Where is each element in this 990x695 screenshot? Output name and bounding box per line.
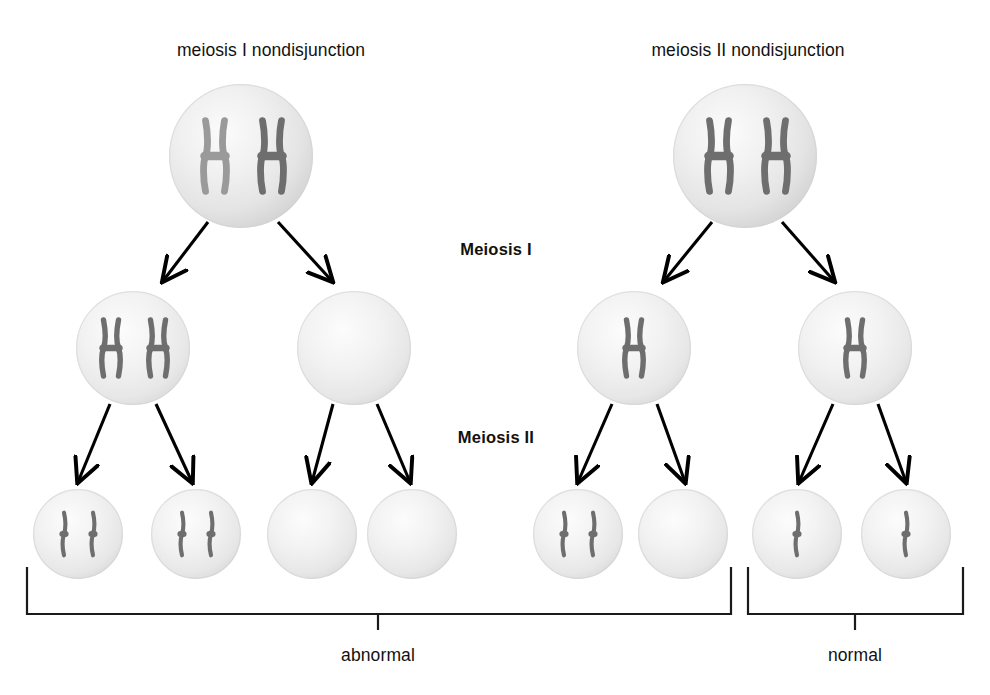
arrow-m1-rb-1 bbox=[799, 404, 833, 482]
arrow-m1-lb-2 bbox=[377, 404, 410, 482]
label-stage-two: Meiosis II bbox=[458, 428, 534, 447]
meiosis-nondisjunction-diagram: meiosis I nondisjunctionmeiosis II nondi… bbox=[0, 0, 990, 695]
cell-m1-left-a bbox=[76, 291, 190, 405]
bracket-normal bbox=[748, 567, 963, 630]
arrow-m1-ra-2 bbox=[657, 404, 685, 482]
cell-gamete-3 bbox=[267, 489, 357, 579]
diagram-canvas bbox=[0, 0, 990, 695]
cell-gamete-5 bbox=[533, 489, 623, 579]
arrow-m1-lb-1 bbox=[312, 404, 333, 482]
cell-m1-left-b bbox=[297, 291, 411, 405]
arrow-m1-la-2 bbox=[156, 404, 192, 482]
cell-gamete-6 bbox=[638, 489, 728, 579]
label-outcome-right: normal bbox=[828, 645, 882, 666]
cell-gamete-2 bbox=[151, 489, 241, 579]
arrow-m1-rb-2 bbox=[878, 404, 906, 482]
bracket-abnormal bbox=[27, 567, 731, 630]
arrow-p-left-1 bbox=[163, 222, 208, 281]
label-title-left: meiosis I nondisjunction bbox=[177, 40, 365, 61]
cell-gamete-4 bbox=[367, 489, 457, 579]
arrow-m1-ra-1 bbox=[578, 404, 612, 482]
label-outcome-left: abnormal bbox=[341, 645, 415, 666]
brackets-layer bbox=[27, 567, 963, 630]
cell-parent-left bbox=[169, 84, 313, 228]
label-title-right: meiosis II nondisjunction bbox=[651, 40, 844, 61]
cells-layer bbox=[33, 84, 951, 579]
arrow-p-right-2 bbox=[782, 222, 834, 281]
arrow-p-left-2 bbox=[278, 222, 332, 281]
arrow-m1-la-1 bbox=[78, 404, 110, 482]
cell-gamete-8 bbox=[861, 489, 951, 579]
cell-gamete-7 bbox=[752, 489, 842, 579]
label-stage-one: Meiosis I bbox=[460, 240, 532, 259]
cell-parent-right bbox=[673, 84, 817, 228]
arrow-p-right-1 bbox=[664, 222, 712, 281]
cell-gamete-1 bbox=[33, 489, 123, 579]
cell-m1-right-b bbox=[798, 291, 912, 405]
cell-m1-right-a bbox=[577, 291, 691, 405]
